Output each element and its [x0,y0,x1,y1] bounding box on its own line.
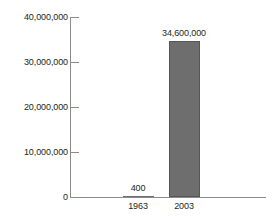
x-axis-tick-label-2003: 2003 [174,201,194,211]
x-axis-line [70,197,266,198]
y-axis-tick-20000000: 20,000,000 [0,103,68,112]
y-axis-tick-label: 30,000,000 [4,58,68,67]
y-axis-tick-mark [71,107,79,108]
y-axis-tick-label: 0 [4,193,68,202]
y-axis-tick-label: 20,000,000 [4,103,68,112]
y-axis-tick-10000000: 10,000,000 [0,148,68,157]
bar-2003 [169,41,200,197]
y-axis-tick-label: 40,000,000 [4,13,68,22]
bar-1963 [123,196,154,197]
bar-value-label-1963: 400 [131,184,146,193]
x-axis-tick-label-1963: 1963 [128,201,148,211]
y-axis-tick-30000000: 30,000,000 [0,58,68,67]
y-axis-tick-40000000: 40,000,000 [0,13,68,22]
y-axis-tick-0: 0 [0,193,68,202]
y-axis-tick-mark [71,152,79,153]
bar-value-label-2003: 34,600,000 [162,29,206,38]
y-axis-tick-mark [71,62,79,63]
bar-chart: 40,000,000 30,000,000 20,000,000 10,000,… [0,0,272,219]
y-axis-tick-mark [71,17,79,18]
y-axis-tick-label: 10,000,000 [4,148,68,157]
